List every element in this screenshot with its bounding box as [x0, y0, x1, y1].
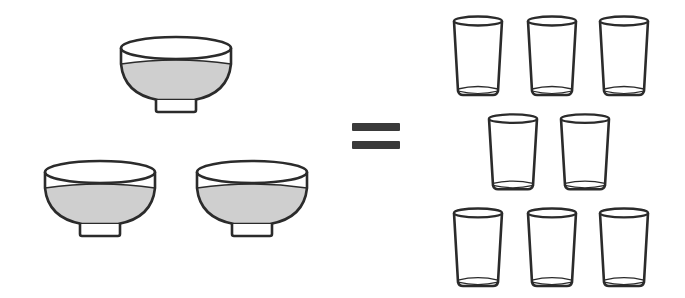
glass-icon: [525, 206, 579, 289]
glass-icon: [525, 14, 579, 98]
glass-icon: [451, 206, 505, 289]
equals-sign: [352, 123, 400, 150]
glass-icon: [486, 112, 540, 192]
glass-icon: [451, 14, 505, 98]
glass-icon: [597, 14, 651, 98]
glass-icon: [558, 112, 612, 192]
equals-bar-top: [352, 123, 400, 131]
bowl-icon: [118, 34, 234, 114]
diagram-canvas: 3 bowls of liquid equal 8 glasses: [0, 0, 685, 298]
bowl-icon: [194, 158, 310, 238]
bowl-icon: [42, 158, 158, 238]
glass-icon: [597, 206, 651, 289]
equals-bar-bottom: [352, 141, 400, 149]
